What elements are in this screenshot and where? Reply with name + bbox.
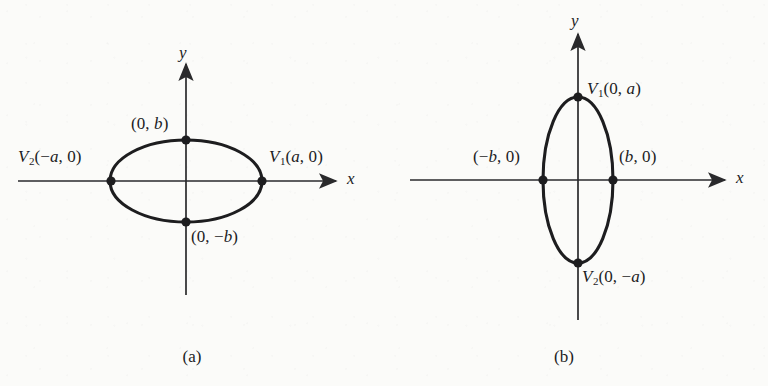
label-vertex-bottom: V2(0, −a) [582, 268, 646, 285]
covertex-top-dot [181, 135, 190, 144]
panel-a: V2(−a, 0) V1(a, 0) (0, b) (0, −b) x y (a… [0, 0, 384, 386]
covertex-left-dot [538, 175, 547, 184]
label-vertex-top: V1(0, a) [587, 80, 641, 97]
label-covertex-top: (0, b) [131, 115, 168, 132]
label-covertex-bottom: (0, −b) [191, 228, 238, 245]
y-axis-label: y [179, 44, 187, 61]
panel-a-caption: (a) [152, 348, 232, 365]
panel-b-graphic [384, 0, 768, 386]
covertex-bottom-dot [181, 217, 190, 226]
y-axis-label: y [571, 12, 579, 29]
vertex-top-dot [573, 92, 582, 101]
x-axis-label: x [347, 170, 355, 187]
covertex-right-dot [608, 175, 617, 184]
panel-a-graphic [0, 0, 384, 386]
x-axis-label: x [736, 169, 744, 186]
label-covertex-left: (−b, 0) [473, 148, 520, 165]
label-vertex-right: V1(a, 0) [269, 148, 323, 165]
panel-b-caption: (b) [524, 348, 604, 365]
panel-b: V1(0, a) V2(0, −a) (−b, 0) (b, 0) x y (b… [384, 0, 768, 386]
vertex-right-dot [257, 176, 266, 185]
ellipse-figure: V2(−a, 0) V1(a, 0) (0, b) (0, −b) x y (a… [0, 0, 768, 386]
label-vertex-left: V2(−a, 0) [18, 148, 82, 165]
label-covertex-right: (b, 0) [619, 148, 656, 165]
vertex-left-dot [106, 176, 115, 185]
